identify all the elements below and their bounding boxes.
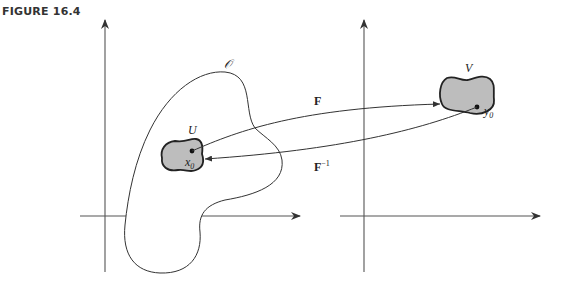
set-u <box>162 139 204 171</box>
forward-map-label: F <box>314 94 321 108</box>
right-axes <box>340 20 540 272</box>
open-set-o <box>125 72 283 273</box>
set-u-label: U <box>188 123 198 137</box>
open-set-label: 𝒪 <box>224 57 235 71</box>
set-v-label: V <box>465 61 474 75</box>
diagram: 𝒪 U x0 V y0 F F−1 <box>0 0 564 289</box>
inverse-map-label: F−1 <box>314 159 330 174</box>
